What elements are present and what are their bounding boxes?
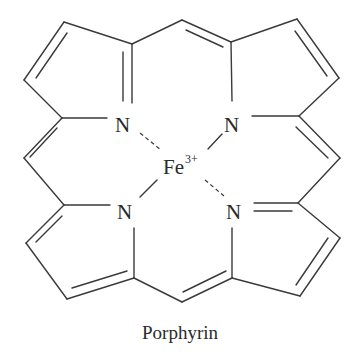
solid-bond-bottom-left — [140, 180, 157, 197]
meso-bridge-top — [132, 20, 231, 47]
meso-bridge-right — [296, 116, 340, 203]
dashed-bond-bottom-right — [205, 180, 224, 196]
nitrogen-label-bottom-left: N — [117, 200, 132, 224]
diagram-caption: Porphyrin — [142, 322, 219, 343]
nitrogen-label-bottom-right: N — [226, 200, 241, 224]
meso-bridge-left — [24, 118, 64, 205]
metal-symbol: Fe — [163, 155, 184, 179]
porphyrin-structure-diagram: N N N N Fe 3+ Porphyrin — [0, 0, 358, 357]
meso-bridge-bottom — [134, 271, 232, 302]
pyrrole-ring-top-left — [24, 22, 132, 118]
pyrrole-ring-top-right — [231, 19, 339, 116]
iron-ion-label: Fe — [163, 155, 184, 179]
iron-charge-superscript: 3+ — [185, 152, 198, 166]
pyrrole-ring-bottom-right — [232, 203, 340, 296]
nitrogen-label-top-left: N — [115, 113, 130, 137]
nitrogen-label-top-right: N — [224, 113, 239, 137]
dashed-bond-top-left — [140, 133, 161, 150]
solid-bond-top-right — [208, 134, 222, 149]
